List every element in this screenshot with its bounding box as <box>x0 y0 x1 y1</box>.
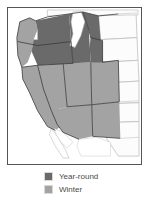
year-round-range-group <box>32 12 103 65</box>
winter-utah <box>63 62 92 106</box>
map-frame <box>7 7 142 165</box>
island-dot-a <box>27 101 29 103</box>
color-swatch-icon <box>44 185 53 194</box>
state-south-dakota <box>101 38 138 63</box>
year-round-montana-east <box>91 41 103 63</box>
state-north-dakota <box>99 14 137 40</box>
legend-item-winter: Winter <box>44 183 144 196</box>
legend-item-year-round: Year-round <box>44 170 144 183</box>
color-swatch-icon <box>44 172 53 181</box>
island-dot-c <box>35 109 37 111</box>
legend-label-year-round: Year-round <box>59 172 98 181</box>
legend-label-winter: Winter <box>59 185 82 194</box>
map-legend: Year-round Winter <box>44 170 144 196</box>
winter-colorado <box>91 60 120 104</box>
island-dot-b <box>31 105 33 107</box>
western-us-map <box>8 8 141 164</box>
winter-new-mexico <box>92 102 121 139</box>
distribution-map-figure: Year-round Winter <box>0 0 146 203</box>
